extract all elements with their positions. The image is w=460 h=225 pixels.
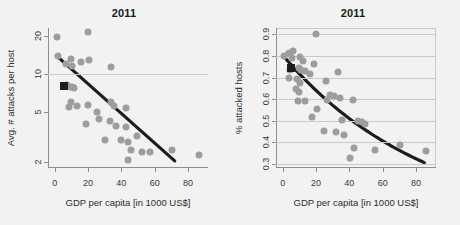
y-tick-label: 0.7 [261, 71, 271, 84]
y-tick [44, 112, 48, 113]
y-tick [272, 142, 276, 143]
y-tick-label: 0.5 [261, 114, 271, 127]
y-axis-left [48, 28, 49, 168]
scatter-point [423, 147, 430, 154]
scatter-point [195, 151, 202, 158]
scatter-point [337, 95, 344, 102]
y-axis-right [276, 28, 277, 168]
gridline [276, 34, 436, 35]
y-tick-label: 5 [33, 109, 43, 114]
gridline [48, 74, 208, 75]
x-axis-title-right: GDP per capita [in 1000 US$] [276, 197, 436, 208]
scatter-point [362, 120, 369, 127]
x-tick-label: 20 [83, 178, 93, 188]
y-tick [272, 34, 276, 35]
scatter-point [55, 53, 62, 60]
scatter-point [54, 34, 61, 41]
scatter-point [74, 102, 81, 109]
plot-area-right: GDP per capita [in 1000 US$] % attacked … [276, 28, 436, 168]
x-tick-label: 80 [411, 178, 421, 188]
scatter-point [288, 55, 295, 62]
y-tick [272, 121, 276, 122]
scatter-point [372, 146, 379, 153]
scatter-point [313, 105, 320, 112]
y-axis-title-right: % attacked hosts [233, 62, 244, 134]
scatter-point [351, 144, 358, 151]
x-tick [155, 168, 156, 172]
x-axis-title-left: GDP per capita [in 1000 US$] [48, 197, 208, 208]
scatter-point [110, 102, 117, 109]
plot-area-left: GDP per capita [in 1000 US$] Avg. # atta… [48, 28, 208, 168]
x-tick [416, 168, 417, 172]
scatter-point [286, 74, 293, 81]
y-axis-title-left: Avg. # attacks per host [5, 50, 16, 146]
y-tick [272, 99, 276, 100]
x-tick-label: 40 [344, 178, 354, 188]
scatter-point [338, 116, 345, 123]
scatter-point [65, 103, 72, 110]
scatter-point [85, 28, 92, 35]
y-tick [272, 56, 276, 57]
y-tick-label: 0.8 [261, 50, 271, 63]
scatter-point [125, 138, 132, 145]
scatter-point [94, 108, 101, 115]
x-tick-label: 60 [150, 178, 160, 188]
scatter-point [323, 97, 330, 104]
x-tick [88, 168, 89, 172]
scatter-point [313, 31, 320, 38]
scatter-point [340, 131, 347, 138]
y-tick-label: 0.6 [261, 93, 271, 106]
chart-title-right: 2011 [246, 7, 460, 19]
chart-panel-left: 2011 GDP per capita [in 1000 US$] Avg. #… [0, 0, 230, 225]
scatter-point [320, 128, 327, 135]
x-tick-label: 60 [378, 178, 388, 188]
highlight-marker [60, 82, 68, 90]
scatter-point [139, 149, 146, 156]
scatter-point [311, 60, 318, 67]
scatter-point [123, 104, 130, 111]
scatter-point [308, 114, 315, 121]
x-tick-label: 0 [280, 178, 285, 188]
scatter-point [78, 58, 85, 65]
y-tick [272, 78, 276, 79]
y-tick-label: 0.4 [261, 136, 271, 149]
x-tick [188, 168, 189, 172]
scatter-point [307, 71, 314, 78]
x-tick [349, 168, 350, 172]
scatter-point [349, 97, 356, 104]
y-tick [44, 74, 48, 75]
scatter-point [95, 115, 102, 122]
highlight-marker [287, 64, 295, 72]
y-tick-label: 10 [33, 69, 43, 79]
y-tick [44, 36, 48, 37]
chart-title-left: 2011 [18, 7, 230, 19]
scatter-point [289, 47, 296, 54]
gridline [276, 142, 436, 143]
x-axis-left [48, 167, 208, 168]
x-tick-label: 0 [52, 178, 57, 188]
scatter-point [169, 146, 176, 153]
scatter-point [302, 98, 309, 105]
scatter-point [134, 133, 141, 140]
x-tick-label: 20 [311, 178, 321, 188]
scatter-point [108, 64, 115, 71]
scatter-point [295, 88, 302, 95]
gridline [276, 164, 436, 165]
scatter-point [70, 85, 77, 92]
chart-panel-right: 2011 GDP per capita [in 1000 US$] % atta… [230, 0, 460, 225]
x-tick [383, 168, 384, 172]
scatter-point [347, 155, 354, 162]
y-tick-label: 0.9 [261, 28, 271, 41]
scatter-point [83, 121, 90, 128]
y-tick [272, 164, 276, 165]
x-tick [283, 168, 284, 172]
y-tick [44, 162, 48, 163]
scatter-point [113, 122, 120, 129]
scatter-point [397, 142, 404, 149]
y-tick-label: 0.3 [261, 157, 271, 170]
scatter-point [333, 129, 340, 136]
scatter-point [146, 149, 153, 156]
scatter-point [294, 98, 301, 105]
scatter-point [101, 136, 108, 143]
x-axis-right [276, 167, 436, 168]
